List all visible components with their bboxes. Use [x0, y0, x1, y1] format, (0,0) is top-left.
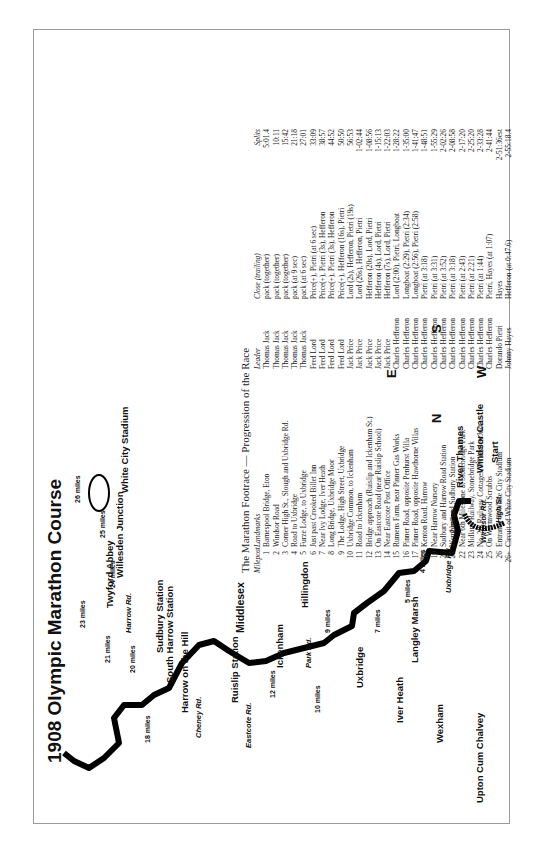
map-page: 1908 Olympic Marathon Course Upton Cum C…: [0, 0, 543, 857]
table-row: 20Sudbury and Harrow Road StationCharles…: [439, 53, 448, 573]
mile-10: 10 miles: [314, 685, 321, 713]
label-langley-marsh: Langley Marsh: [409, 596, 420, 663]
label-ruislip-station: Ruislip Station: [229, 637, 240, 704]
table-row: 3Corner High St., Slough and Uxbridge Rd…: [281, 53, 290, 573]
table-row: 16Pinner Road, opposite Penhurst VillaCh…: [402, 53, 411, 573]
mile-26: 26 miles: [74, 475, 81, 503]
table-row: 10Uxbridge Common, to IckenhamJack Price…: [346, 53, 355, 573]
table-header: Milepost Landmarks Leader Close (trailin…: [253, 53, 262, 573]
road-eastcote-rd: Eastcote Rd.: [244, 703, 253, 748]
label-harrow-hill: Harrow on the Hill: [179, 632, 190, 713]
table-row: 8Long Bridge, Uxbridge MoorFred LordPric…: [327, 53, 336, 573]
table-row: 21Wembley and Sudbury StationCharles Hef…: [448, 53, 457, 573]
mile-24: 24 miles: [109, 560, 116, 588]
label-upton: Upton Cum Chalvey: [474, 713, 485, 803]
table-row: 19Near Harrow NurseryCharles HefferonPie…: [430, 53, 439, 573]
table-row: 6Just past Crooked Billet InnFred LordPr…: [309, 53, 318, 573]
label-ickenham: Ickenham: [274, 624, 285, 668]
label-wexham: Wexham: [434, 704, 445, 743]
table-row: 24No. 28, Railway Cottages, Willesden Jn…: [476, 53, 485, 573]
table-row: 26+Circuit of White City StadiumJohnny H…: [504, 53, 513, 573]
table-row: 13On Eastcote Road (near Ruislip School)…: [374, 53, 383, 573]
mile-21: 21 miles: [104, 635, 111, 663]
mile-20: 20 miles: [129, 645, 136, 673]
table-row: 7Near Ivy Lodge, Iver HeathFred LordPric…: [318, 53, 327, 573]
table-row: 17Pinner Road, opposite Hawthorne Villas…: [411, 53, 420, 573]
table-row: 25On Wormwood ScrubbsCharles HefferonPie…: [485, 53, 494, 573]
road-park-rd: Park Rd.: [304, 638, 313, 668]
label-sudbury: Sudbury Station: [154, 580, 165, 653]
mile-23: 23 miles: [79, 600, 86, 628]
road-harrow-rd: Harrow Rd.: [124, 593, 133, 633]
table-row: 15Rumens Farm, near Pinner Gas WorksChar…: [392, 53, 401, 573]
table-row: 22Near 6th Milestone at Stonebridge Park…: [458, 53, 467, 573]
road-cheney-rd: Cheney Rd.: [194, 697, 203, 738]
label-middlesex: Middlesex: [234, 582, 246, 633]
mile-12: 12 miles: [269, 670, 276, 698]
table-row: 9The Lodge, High Street, UxbridgeFred Lo…: [337, 53, 346, 573]
mile-9: 9 miles: [324, 609, 331, 633]
mile-5: 5 miles: [404, 579, 411, 603]
race-progression-table: The Marathon Footrace — Progression of t…: [239, 53, 513, 573]
table-title: The Marathon Footrace — Progression of t…: [239, 53, 251, 573]
table-row: 1Barnespool Bridge, EtonThomas Jackpack …: [262, 53, 271, 573]
table-row: 2Windsor RoadThomas Jackpack (together)1…: [272, 53, 281, 573]
label-south-harrow: South Harrow Station: [164, 586, 175, 683]
label-iver-heath: Iver Heath: [394, 677, 405, 723]
table-row: 23Midland Railway, Stonebridge ParkCharl…: [467, 53, 476, 573]
mile-18: 18 miles: [144, 715, 151, 743]
table-row: 18Kenton Road, HarrowCharles HefferonPie…: [420, 53, 429, 573]
table-row: 11Road to IckenhamJack PriceLord (26s), …: [355, 53, 364, 573]
label-white-city: White City Stadium: [119, 406, 130, 493]
white-city-stadium-icon: [89, 475, 109, 511]
table-row: 4Road to UxbridgeThomas Jackpack (at 9 s…: [290, 53, 299, 573]
table-row: 26Entrance of White City StadiumDorando …: [495, 53, 504, 573]
mile-25: 25 miles: [99, 510, 106, 538]
mile-7: 7 miles: [374, 609, 381, 633]
label-uxbridge: Uxbridge: [354, 647, 365, 688]
table-row: 5Furze Lodge, to UxbridgeThomas Jackpack…: [299, 53, 308, 573]
table-row: 14Near Eastcote Post OfficeJack PriceHef…: [383, 53, 392, 573]
table-row: 12Bridge approach (Ruislip and Ickenham …: [365, 53, 374, 573]
page-frame: 1908 Olympic Marathon Course Upton Cum C…: [33, 29, 510, 824]
